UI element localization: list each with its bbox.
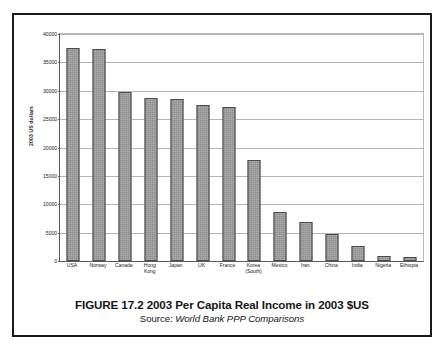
x-tick-label: Iran	[301, 262, 310, 268]
bar-slot	[293, 34, 319, 261]
bar-slot	[190, 34, 216, 261]
x-tick-label: UK	[198, 262, 205, 268]
x-tick-label: China	[325, 262, 338, 268]
bar-slot	[60, 34, 86, 261]
figure-source-prefix: Source:	[140, 313, 173, 324]
bar-slot	[138, 34, 164, 261]
figure-caption: FIGURE 17.2 2003 Per Capita Real Income …	[14, 297, 430, 326]
figure-title: FIGURE 17.2 2003 Per Capita Real Income …	[14, 297, 430, 312]
x-tick-label-line: Mexico	[271, 262, 287, 268]
bar-slot	[397, 34, 423, 261]
bar-slot	[216, 34, 242, 261]
bar-slot	[345, 34, 371, 261]
bar[interactable]	[92, 49, 105, 261]
x-tick-label-line: Canada	[115, 262, 133, 268]
y-tick-label: 10000	[43, 201, 57, 207]
bar[interactable]	[66, 48, 79, 261]
y-tick-label: 25000	[43, 116, 57, 122]
x-tick-label: Canada	[115, 262, 133, 268]
bar[interactable]	[248, 160, 261, 261]
x-tick-label-line: Iran	[301, 262, 310, 268]
x-tick-label-line: Ethiopia	[400, 262, 418, 268]
bar[interactable]	[404, 257, 417, 261]
x-tick-label-line: Japan	[169, 262, 183, 268]
bar[interactable]	[326, 234, 339, 261]
bar[interactable]	[274, 212, 287, 261]
y-tick-label: 20000	[43, 145, 57, 151]
figure-source: Source: World Bank PPP Comparisons	[14, 312, 430, 326]
bar-slot	[112, 34, 138, 261]
bar[interactable]	[222, 107, 235, 261]
bar-slot	[86, 34, 112, 261]
x-tick-label: USA	[67, 262, 77, 268]
bars-container	[60, 34, 423, 261]
plot-area: 0500010000150002000025000300003500040000	[59, 33, 424, 262]
x-tick-label-line: UK	[198, 262, 205, 268]
x-tick-label: Korea(South)	[245, 262, 261, 275]
figure-source-name: World Bank PPP Comparisons	[175, 313, 304, 324]
x-tick-label: HongKong	[144, 262, 156, 275]
x-tick-label-line: Kong	[144, 268, 156, 274]
x-tick-label-line: Norway	[89, 262, 106, 268]
x-tick-label: Norway	[89, 262, 106, 268]
x-axis-labels: USANorwayCanadaHongKongJapanUKFranceKore…	[59, 262, 422, 292]
bar[interactable]	[196, 105, 209, 261]
bar[interactable]	[170, 99, 183, 261]
bar-slot	[371, 34, 397, 261]
bar-slot	[267, 34, 293, 261]
bar[interactable]	[118, 92, 131, 261]
x-tick-label: India	[352, 262, 363, 268]
y-tick-label: 35000	[43, 59, 57, 65]
x-tick-label: Ethiopia	[400, 262, 418, 268]
x-tick-label-line: China	[325, 262, 338, 268]
x-tick-label: France	[220, 262, 236, 268]
x-tick-label-line: France	[220, 262, 236, 268]
x-tick-label: Mexico	[271, 262, 287, 268]
y-tick-label: 15000	[43, 173, 57, 179]
bar[interactable]	[144, 98, 157, 261]
x-tick-label-line: USA	[67, 262, 77, 268]
y-tick-label: 40000	[43, 31, 57, 37]
y-tick-label: 30000	[43, 88, 57, 94]
x-tick-label-line: Nigeria	[375, 262, 391, 268]
y-tick-label: 5000	[46, 230, 57, 236]
bar-chart: 2003 US dollars 050001000015000200002500…	[14, 15, 430, 295]
x-tick-label: Japan	[169, 262, 183, 268]
bar-slot	[242, 34, 268, 261]
y-tick-label: 0	[54, 258, 57, 264]
bar[interactable]	[300, 222, 313, 261]
x-tick-label: Nigeria	[375, 262, 391, 268]
bar[interactable]	[378, 256, 391, 261]
x-tick-label-line: (South)	[245, 268, 261, 274]
figure-frame: 2003 US dollars 050001000015000200002500…	[12, 13, 432, 337]
y-axis-title: 2003 US dollars	[28, 86, 34, 166]
bar-slot	[319, 34, 345, 261]
bar-slot	[164, 34, 190, 261]
bar[interactable]	[352, 246, 365, 261]
x-tick-label-line: India	[352, 262, 363, 268]
